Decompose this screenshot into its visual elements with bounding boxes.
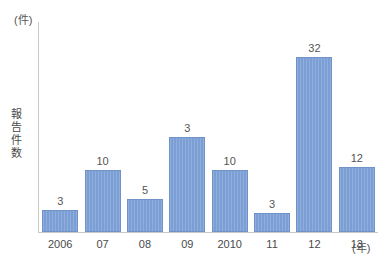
bar-group: 5 xyxy=(127,22,163,232)
bar[interactable] xyxy=(169,137,205,232)
bar-group: 32 xyxy=(296,22,332,232)
x-axis-tick-label: 11 xyxy=(251,238,293,250)
bar-value-label: 5 xyxy=(127,184,163,196)
bar[interactable] xyxy=(296,57,332,232)
x-axis-tick-label: 12 xyxy=(293,238,335,250)
bar-group: 3 xyxy=(42,22,78,232)
bar[interactable] xyxy=(339,167,375,232)
x-axis-line xyxy=(38,232,378,233)
bar-value-label: 12 xyxy=(339,152,375,164)
x-axis-tick-label: 09 xyxy=(166,238,208,250)
bar-value-label: 3 xyxy=(254,198,290,210)
x-axis-tick-label: 13 xyxy=(336,238,378,250)
x-axis-tick-label: 2010 xyxy=(209,238,251,250)
bar[interactable] xyxy=(254,213,290,232)
y-axis-unit-label: (件) xyxy=(14,11,32,27)
bar-value-label: 10 xyxy=(212,155,248,167)
bar-value-label: 10 xyxy=(85,155,121,167)
bar[interactable] xyxy=(85,170,121,232)
plot-area: 310531033212 xyxy=(39,22,378,232)
bar[interactable] xyxy=(127,199,163,232)
bar-group: 3 xyxy=(169,22,205,232)
bar-value-label: 3 xyxy=(42,195,78,207)
bar-group: 12 xyxy=(339,22,375,232)
bar-value-label: 32 xyxy=(296,42,332,54)
x-axis-tick-label: 2006 xyxy=(39,238,81,250)
y-axis-title: 報告件数 xyxy=(8,108,24,160)
x-axis-tick-label: 07 xyxy=(81,238,123,250)
bar-group: 3 xyxy=(254,22,290,232)
bar-value-label: 3 xyxy=(169,122,205,134)
bar-chart: (件) 報告件数 310531033212 (年) 20060708092010… xyxy=(0,0,386,263)
bar-group: 10 xyxy=(212,22,248,232)
bar-group: 10 xyxy=(85,22,121,232)
bar[interactable] xyxy=(42,210,78,232)
x-axis-tick-label: 08 xyxy=(124,238,166,250)
bar[interactable] xyxy=(212,170,248,232)
